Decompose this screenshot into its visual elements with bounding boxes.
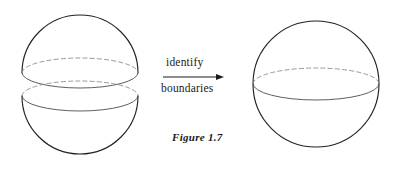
- lower-hemisphere-group: [22, 81, 138, 154]
- sphere-group: [253, 21, 379, 147]
- sphere-equator-back-arc: [253, 68, 379, 84]
- upper-hemisphere-outline: [22, 15, 138, 73]
- identify-boundaries-arrow: [163, 74, 224, 80]
- sphere-outline: [253, 21, 379, 147]
- upper-hemisphere-group: [22, 15, 138, 88]
- arrow-label-boundaries: boundaries: [161, 83, 213, 95]
- arrow-head: [216, 74, 224, 80]
- upper-hemisphere-rim-back-arc: [22, 58, 138, 73]
- lower-hemisphere-outline: [22, 96, 138, 154]
- lower-hemisphere-rim-front-arc: [22, 96, 138, 111]
- figure-1-7: identify boundaries Figure 1.7: [0, 0, 393, 169]
- figure-caption: Figure 1.7: [172, 132, 223, 143]
- upper-hemisphere-rim-front-arc: [22, 73, 138, 88]
- arrow-label-identify: identify: [166, 57, 203, 69]
- sphere-equator-front-arc: [253, 84, 379, 100]
